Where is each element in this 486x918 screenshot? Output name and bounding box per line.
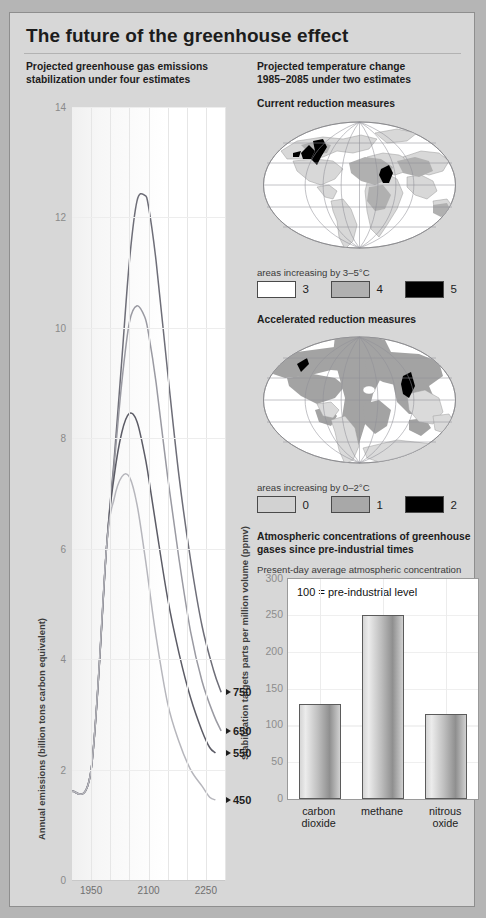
bar-chart-ytick-200: 200: [257, 645, 283, 657]
map2-legend-swatch-1: [331, 496, 370, 513]
bar-chart-ytick-0: 0: [257, 792, 283, 804]
line-chart-hgrid: [72, 328, 225, 329]
line-chart-ytick-4: 4: [42, 654, 66, 665]
map2-legend-label-1: 1: [377, 499, 383, 511]
line-end-arrow-550: [226, 750, 231, 756]
map1-legend-swatch-3: [257, 281, 296, 298]
line-chart-vgrid: [187, 107, 188, 880]
line-chart-vgrid: [225, 107, 226, 880]
line-chart-vgrid: [206, 107, 207, 880]
globe-map-1: [257, 113, 462, 263]
map2-legend: 012: [257, 496, 479, 513]
line-chart-ytick-10: 10: [42, 322, 66, 333]
line-chart-xtick-2100: 2100: [137, 885, 159, 896]
map1-legend-title: areas increasing by 3–5°C: [257, 267, 479, 278]
bar-heading-line1: Atmospheric concentrations of greenhouse: [257, 531, 479, 544]
line-end-label-750: 750: [233, 686, 251, 698]
bar-chart: 100 = pre-industrial level 0501001502002…: [257, 578, 479, 828]
line-chart-plot-area: [72, 107, 225, 880]
bar-chart-ytick-100: 100: [257, 718, 283, 730]
line-chart-heading: Projected greenhouse gas emissions stabi…: [26, 61, 236, 86]
line-chart-ytick-2: 2: [42, 764, 66, 775]
line-chart-xtick-1950: 1950: [80, 885, 102, 896]
right-column: Projected temperature change 1985–2085 u…: [257, 61, 479, 828]
bar-chart-subheading: Present-day average atmospheric concentr…: [257, 564, 479, 575]
line-end-label-550: 550: [233, 747, 251, 759]
line-chart-heading-line2: stabilization under four estimates: [26, 74, 236, 87]
line-series-750: [72, 194, 221, 795]
map1-legend-swatch-5: [405, 281, 444, 298]
line-series-450: [72, 474, 215, 800]
map1-legend: 345: [257, 281, 479, 298]
map1-legend-label-5: 5: [451, 283, 457, 295]
map2-legend-swatch-2: [405, 496, 444, 513]
bar-chart-ytick-250: 250: [257, 608, 283, 620]
page-title: The future of the greenhouse effect: [26, 25, 348, 47]
line-chart-vgrid: [149, 107, 150, 880]
temp-heading-line1: Projected temperature change: [257, 61, 479, 74]
infographic-card: The future of the greenhouse effect Proj…: [9, 12, 475, 907]
map-current-reduction: [257, 113, 462, 263]
line-chart-vgrid: [110, 107, 111, 880]
line-series-550: [72, 413, 215, 794]
title-divider: [24, 53, 461, 54]
line-chart-ytick-12: 12: [42, 212, 66, 223]
line-chart-hgrid: [72, 659, 225, 660]
infographic-page: The future of the greenhouse effect Proj…: [0, 0, 486, 918]
bar-chart-plot-area: 100 = pre-industrial level: [287, 578, 479, 800]
map2-title: Accelerated reduction measures: [257, 314, 479, 327]
map2-legend-label-2: 2: [451, 499, 457, 511]
line-chart-vgrid: [91, 107, 92, 880]
map2-legend-title: areas increasing by 0–2°C: [257, 482, 479, 493]
bar-methane: [362, 615, 404, 799]
bar-chart-ytick-150: 150: [257, 682, 283, 694]
line-end-label-650: 650: [233, 725, 251, 737]
bar-heading-line2: gases since pre-industrial times: [257, 544, 479, 557]
bar-nitrous-oxide: [425, 714, 467, 799]
line-chart-xtick-2250: 2250: [195, 885, 217, 896]
map1-title: Current reduction measures: [257, 98, 479, 111]
map2-legend-swatch-0: [257, 496, 296, 513]
map1-legend-label-4: 4: [377, 283, 383, 295]
map2-legend-label-0: 0: [303, 499, 309, 511]
line-chart-ylabel-left: Annual emissions (billion tons carbon eq…: [36, 618, 47, 840]
globe-map-2: [257, 328, 462, 478]
line-chart-vgrid: [129, 107, 130, 880]
line-end-label-450: 450: [233, 794, 251, 806]
bar-carbon-dioxide: [299, 704, 341, 799]
line-chart-hgrid: [72, 549, 225, 550]
line-chart-ytick-6: 6: [42, 543, 66, 554]
line-chart-hgrid: [72, 770, 225, 771]
map1-legend-swatch-4: [331, 281, 370, 298]
line-chart-hgrid: [72, 217, 225, 218]
line-chart-hgrid: [72, 438, 225, 439]
line-chart-ytick-8: 8: [42, 433, 66, 444]
line-end-arrow-650: [226, 728, 231, 734]
temp-heading-line2: 1985–2085 under two estimates: [257, 74, 479, 87]
map1-legend-label-3: 3: [303, 283, 309, 295]
line-chart-hgrid: [72, 107, 225, 108]
line-chart-ytick-14: 14: [42, 102, 66, 113]
bar-chart-ytick-300: 300: [257, 572, 283, 584]
temp-change-heading: Projected temperature change 1985–2085 u…: [257, 61, 479, 86]
line-chart-axis-line: [72, 880, 225, 881]
line-end-arrow-450: [226, 797, 231, 803]
line-chart-heading-line1: Projected greenhouse gas emissions: [26, 61, 236, 74]
line-chart-vgrid: [168, 107, 169, 880]
line-end-arrow-750: [226, 689, 231, 695]
bar-xlabel-nitrous-oxide: nitrousoxide: [406, 805, 484, 830]
line-chart: Annual emissions (billion tons carbon eq…: [24, 91, 246, 901]
bar-chart-note: 100 = pre-industrial level: [297, 586, 417, 598]
bar-chart-ytick-50: 50: [257, 755, 283, 767]
line-chart-ytick-0: 0: [42, 875, 66, 886]
map-accelerated-reduction: [257, 328, 462, 478]
bar-chart-heading: Atmospheric concentrations of greenhouse…: [257, 531, 479, 556]
